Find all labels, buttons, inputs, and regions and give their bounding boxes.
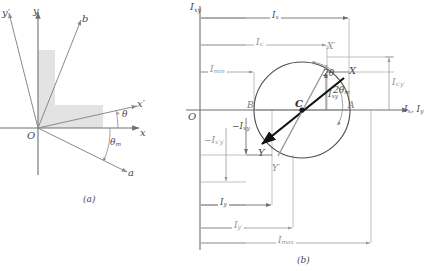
panel-a-label-y-prime: y′ — [2, 8, 10, 18]
panel-b-point-X-label: X — [349, 66, 356, 76]
dim-Imax-sub: max — [282, 239, 294, 245]
panel-a-caption: (a) — [83, 194, 95, 204]
panel-b-point-B-label: B — [247, 101, 254, 110]
panel-b-dim-Ixpyp-neg-label: −Ix′y′ — [204, 136, 224, 146]
dim-Imin-sub: min — [214, 68, 225, 74]
panel-b-point-Y-prime-label: Y′ — [272, 164, 280, 173]
dim-Ix-sub: x — [276, 14, 279, 20]
panel-b-dim-Imax-label: Imax — [276, 236, 296, 246]
panel-a-angle-theta-m-label: θm — [110, 138, 121, 148]
panel-b-caption: (b) — [297, 255, 310, 265]
panel-b-point-Y-label: Y — [258, 148, 265, 158]
dim-Ixpypneg-base: −I — [204, 135, 215, 145]
dim-Ixyneg-sub: xy — [243, 125, 250, 131]
y-prime-axis-line — [9, 13, 38, 128]
panel-b-dim-Ixpyp-label: Ix′y′ — [392, 78, 405, 88]
panel-a-label-b: b — [82, 14, 88, 24]
panel-b-point-X-prime-label: X′ — [327, 42, 335, 51]
panel-a-label-a: a — [128, 168, 134, 178]
panel-b-angle-two-theta-m-label: 2θm — [333, 86, 350, 96]
figure-container: y x y′ x′ b a O θ θm (a) — [0, 0, 436, 271]
axis-h-sub2: y — [420, 108, 423, 114]
panel-a-label-x: x — [140, 128, 146, 138]
panel-b-dim-Imin-label: Imin — [208, 65, 227, 75]
panel-a-label-x-prime: x′ — [137, 99, 145, 109]
panel-b-axis-horizontal-label: Ix, Iy — [404, 105, 423, 115]
panel-b-point-A-label: A — [348, 101, 355, 110]
theta-arc-tick — [117, 112, 120, 115]
panel-b-dim-Ixy-neg-label: −Ixy — [232, 122, 250, 132]
panel-b-axis-vertical-label: Ixy — [190, 2, 201, 13]
panel-b-construction-lines — [200, 18, 394, 243]
panel-b-dim-Ix-prime-label: Ix′ — [254, 38, 266, 48]
panel-a-angle-theta-label: θ — [122, 110, 127, 119]
dim-Ixp-sub: x′ — [260, 41, 265, 47]
panel-b-dim-Iy-prime-label: Iy′ — [232, 221, 244, 231]
dim-Iy-sub: y — [224, 201, 227, 207]
panel-b-point-C-label: C — [295, 99, 303, 109]
l-section-shape — [38, 50, 103, 128]
panel-b-graphic — [186, 0, 436, 262]
a-axis-line — [38, 128, 127, 172]
dim-Ixpypneg-sub: x′y′ — [215, 139, 224, 145]
theta-m-sub: m — [115, 141, 121, 147]
two-theta-m-base: 2θ — [333, 85, 344, 95]
panel-b-angle-two-theta-label: 2θ — [323, 69, 334, 78]
dim-Iyp-sub: y′ — [238, 224, 243, 230]
panel-b-dim-Ix-label: Ix — [270, 11, 281, 21]
axis-v-sub: xy — [194, 6, 201, 14]
panel-b-dim-Iy-label: Iy — [218, 198, 229, 208]
dim-Ixpyp-sub: x′y′ — [396, 81, 405, 87]
panel-a-origin-label: O — [27, 131, 35, 141]
axis-h-base2: , I — [411, 104, 420, 114]
dim-Ixyneg-base: −I — [232, 121, 243, 131]
two-theta-m-sub: m — [344, 89, 350, 95]
panel-b-origin-label: O — [188, 112, 196, 122]
panel-a-label-y: y — [33, 6, 39, 16]
